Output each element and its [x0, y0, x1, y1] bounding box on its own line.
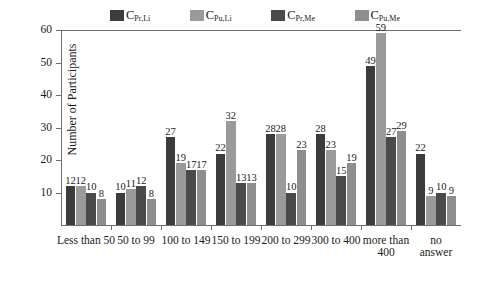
bar-rect [116, 193, 126, 226]
bar: 9 [447, 30, 457, 225]
bar-rect [347, 163, 357, 225]
bar: 28 [276, 30, 286, 225]
bar-value-label: 9 [449, 185, 454, 196]
bar: 22 [216, 30, 226, 225]
bar: 10 [286, 30, 296, 225]
bar-rect [97, 199, 107, 225]
bar: 23 [326, 30, 336, 225]
bar-value-label: 32 [226, 110, 237, 121]
bar-rect [336, 176, 346, 225]
bar-value-label: 13 [236, 172, 247, 183]
bar-group: 27191717 [166, 30, 206, 225]
legend-label-series-3: CPu,Me [371, 9, 400, 23]
bar-rect [216, 154, 226, 226]
bar-rect [126, 189, 136, 225]
bar: 12 [66, 30, 76, 225]
bar: 12 [136, 30, 146, 225]
bar: 12 [76, 30, 86, 225]
legend-entry-2: CPr,Me [271, 9, 315, 23]
y-tick-mark-40 [56, 95, 61, 96]
x-tick-label: 300 to 400 [311, 235, 360, 247]
bar-rect [447, 196, 457, 225]
bar-rect [366, 66, 376, 225]
y-tick-label-30: 30 [41, 122, 53, 134]
bar-value-label: 11 [126, 178, 136, 189]
x-tick-mark [261, 226, 262, 230]
bar-value-label: 27 [386, 126, 397, 137]
y-tick-label-40: 40 [41, 89, 53, 101]
bar-rect [316, 134, 326, 225]
bar-value-label: 28 [265, 123, 276, 134]
bar: 32 [226, 30, 236, 225]
bar-rect [136, 186, 146, 225]
bar-group: 229109 [416, 30, 456, 225]
bar: 15 [336, 30, 346, 225]
bar-rect [266, 134, 276, 225]
x-tick-mark [211, 226, 212, 230]
x-tick-label: no answer [420, 235, 453, 258]
bar-group: 28281023 [266, 30, 306, 225]
bar-rect [186, 170, 196, 225]
x-tick-mark [161, 226, 162, 230]
bar-rect [426, 196, 436, 225]
plot-area: 1212108101112827191717223213132828102328… [61, 30, 461, 226]
bar-value-label: 49 [365, 55, 376, 66]
y-axis-tick-labels: 102030405060 [0, 30, 61, 226]
bar-value-label: 19 [346, 152, 357, 163]
bar: 19 [176, 30, 186, 225]
bar: 19 [347, 30, 357, 225]
x-tick-mark [361, 226, 362, 230]
legend-entry-1: CPu,Li [190, 9, 232, 23]
bar-rect [297, 150, 307, 225]
x-tick-label: 150 to 199 [211, 235, 260, 247]
chart-legend: CPr,Li CPu,Li CPr,Me CPu,Me [110, 6, 400, 25]
y-tick-mark-10 [56, 193, 61, 194]
bar-value-label: 17 [186, 159, 197, 170]
bar-value-label: 59 [376, 22, 387, 33]
bar-rect [86, 193, 96, 226]
bar-value-label: 10 [86, 181, 97, 192]
x-tick-label: 100 to 149 [161, 235, 210, 247]
bar: 11 [126, 30, 136, 225]
bar: 28 [316, 30, 326, 225]
bar-value-label: 12 [76, 175, 87, 186]
bar-chart: CPr,Li CPu,Li CPr,Me CPu,Me Number of Pa… [0, 0, 483, 291]
bar-group: 49592729 [366, 30, 406, 225]
bar-value-label: 12 [65, 175, 76, 186]
bar-rect [286, 193, 296, 226]
bar-value-label: 28 [276, 123, 287, 134]
bar-value-label: 19 [176, 152, 187, 163]
legend-entry-0: CPr,Li [110, 9, 150, 23]
bar-rect [397, 131, 407, 225]
legend-swatch-series-3 [355, 10, 369, 21]
legend-swatch-series-1 [190, 10, 204, 21]
bar: 10 [86, 30, 96, 225]
bar-value-label: 23 [326, 139, 337, 150]
bar: 17 [197, 30, 207, 225]
bar: 22 [416, 30, 426, 225]
legend-swatch-series-0 [110, 10, 124, 21]
bar-group: 1011128 [116, 30, 156, 225]
bar: 13 [247, 30, 257, 225]
bar-value-label: 27 [165, 126, 176, 137]
bar: 27 [166, 30, 176, 225]
bar-value-label: 9 [428, 185, 433, 196]
bar: 59 [376, 30, 386, 225]
bar-rect [76, 186, 86, 225]
legend-label-series-2: CPr,Me [287, 9, 315, 23]
bar: 49 [366, 30, 376, 225]
bar-group: 1212108 [66, 30, 106, 225]
bar: 17 [186, 30, 196, 225]
bar-rect [197, 170, 207, 225]
bar-rect [276, 134, 286, 225]
bar: 13 [236, 30, 246, 225]
bar-groups: 1212108101112827191717223213132828102328… [61, 30, 461, 226]
bar-rect [376, 33, 386, 225]
y-tick-label-50: 50 [41, 57, 53, 69]
bar-group: 28231519 [316, 30, 356, 225]
x-tick-label: 50 to 99 [117, 235, 155, 247]
x-axis-tick-labels: Less than 5050 to 99100 to 149150 to 199… [61, 235, 461, 275]
legend-swatch-series-2 [271, 10, 285, 21]
bar: 23 [297, 30, 307, 225]
x-tick-mark [111, 226, 112, 230]
